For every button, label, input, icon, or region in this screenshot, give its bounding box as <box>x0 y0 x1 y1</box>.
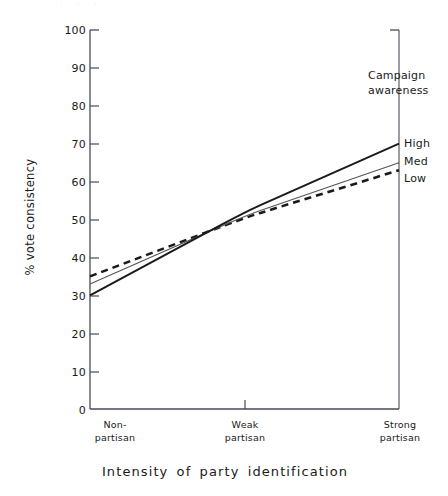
x-tick-label-strong-partisan-line2: partisan <box>345 431 448 444</box>
series-line-med <box>90 163 399 284</box>
x-axis-title: Intensity of party identification <box>60 464 390 479</box>
x-tick-label-strong-partisan: Strong partisan <box>345 418 448 444</box>
legend-title: Campaign awareness <box>368 68 448 98</box>
legend-title-line2: awareness <box>368 83 448 98</box>
x-tick-label-non-partisan-line2: partisan <box>60 431 170 444</box>
axis-spines <box>90 30 399 409</box>
x-tick-label-non-partisan: Non- partisan <box>60 418 170 444</box>
series-line-high <box>90 144 399 296</box>
legend-entry-low: Low <box>404 172 448 185</box>
legend-title-line1: Campaign <box>368 68 448 83</box>
x-tick-label-strong-partisan-line1: Strong <box>345 418 448 431</box>
x-tick-label-weak-partisan: Weak partisan <box>190 418 300 444</box>
x-tick-label-non-partisan-line1: Non- <box>60 418 170 431</box>
x-tick-label-weak-partisan-line1: Weak <box>190 418 300 431</box>
y-axis-ticks <box>90 68 99 372</box>
legend-entry-med: Med <box>404 155 448 168</box>
series-line-low <box>90 170 399 276</box>
x-tick-label-weak-partisan-line2: partisan <box>190 431 300 444</box>
legend-entry-high: High <box>404 137 448 150</box>
chart-figure: · · · % vote consistency 100 90 80 70 60… <box>0 0 448 496</box>
